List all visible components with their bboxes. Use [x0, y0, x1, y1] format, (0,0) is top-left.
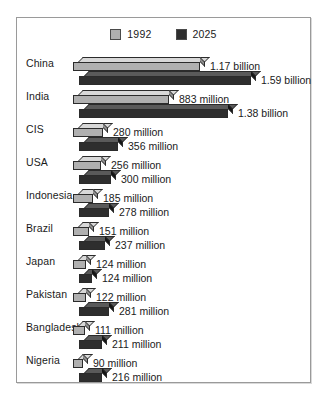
category-label: Nigeria [26, 354, 60, 366]
bar-group: 90 million216 million [73, 352, 310, 385]
bar-value-label: 1.59 billion [261, 74, 311, 86]
category-label: Japan [26, 255, 55, 267]
chart-row: USA256 million300 million [17, 154, 310, 187]
bar-value-label: 151 million [99, 225, 149, 237]
bar-front-face [73, 95, 169, 104]
legend-item-2025[interactable]: 2025 [176, 28, 217, 40]
bar-front-face [73, 62, 200, 71]
bar-1992[interactable]: 883 million [73, 90, 169, 100]
bar-2025[interactable]: 211 million [79, 335, 102, 345]
legend-label-2025: 2025 [193, 28, 217, 40]
bar-value-label: 281 million [119, 305, 169, 317]
bar-2025[interactable]: 124 million [79, 269, 92, 279]
bar-value-label: 1.38 billion [238, 107, 288, 119]
category-label: Brazil [26, 222, 53, 234]
bar-2025[interactable]: 237 million [79, 236, 105, 246]
chart-row: Pakistan122 million281 million [17, 286, 310, 319]
bar-group: 280 million356 million [73, 121, 310, 154]
bar-front-face [79, 208, 109, 217]
bar-value-label: 300 million [121, 173, 171, 185]
bar-group: 124 million124 million [73, 253, 310, 286]
bar-value-label: 90 million [93, 357, 137, 369]
bar-value-label: 211 million [112, 338, 161, 350]
bar-front-face [79, 340, 102, 349]
chart-row: Japan124 million124 million [17, 253, 310, 286]
bar-group: 256 million300 million [73, 154, 310, 187]
bar-value-label: 237 million [115, 239, 165, 251]
bar-2025[interactable]: 300 million [79, 170, 111, 180]
bar-top-face [78, 156, 111, 161]
bar-top-face [78, 189, 103, 194]
category-label: Indonesia [26, 189, 72, 201]
bar-front-face [73, 161, 101, 170]
category-label: USA [26, 156, 48, 168]
bar-front-face [73, 260, 86, 269]
bar-value-label: 122 million [96, 291, 146, 303]
bar-value-label: 1.17 billion [210, 60, 260, 72]
bar-1992[interactable]: 122 million [73, 288, 86, 298]
bar-value-label: 124 million [102, 272, 152, 284]
bar-front-face [73, 293, 86, 302]
bar-group: 122 million281 million [73, 286, 310, 319]
bar-front-face [79, 76, 251, 85]
bar-front-face [79, 274, 92, 283]
bar-1992[interactable]: 124 million [73, 255, 86, 265]
bar-value-label: 185 million [103, 192, 153, 204]
bar-front-face [73, 194, 93, 203]
bar-value-label: 216 million [112, 371, 162, 383]
category-label: China [26, 57, 54, 69]
category-label: India [26, 90, 49, 102]
legend-label-1992: 1992 [127, 28, 151, 40]
bar-value-label: 883 million [179, 93, 229, 105]
bar-2025[interactable]: 1.38 billion [79, 104, 228, 114]
chart-row: Brazil151 million237 million [17, 220, 310, 253]
bar-front-face [79, 307, 109, 316]
bar-group: 883 million1.38 billion [73, 88, 310, 121]
bar-front-face [73, 326, 85, 335]
bar-front-face [79, 109, 228, 118]
bar-1992[interactable]: 151 million [73, 222, 89, 232]
category-label: Pakistan [26, 288, 67, 300]
legend-item-1992[interactable]: 1992 [110, 28, 151, 40]
bar-front-face [73, 359, 83, 368]
legend-swatch-light-icon [110, 29, 121, 40]
chart-row: India883 million1.38 billion [17, 88, 310, 121]
chart-row: Indonesia185 million278 million [17, 187, 310, 220]
bar-1992[interactable]: 256 million [73, 156, 101, 166]
category-label: CIS [26, 123, 44, 135]
chart-legend: 1992 2025 [17, 28, 310, 40]
bar-2025[interactable]: 216 million [79, 368, 102, 378]
bar-value-label: 256 million [111, 159, 161, 171]
chart-row: China1.17 billion1.59 billion [17, 55, 310, 88]
bar-front-face [79, 142, 118, 151]
chart-row: CIS280 million356 million [17, 121, 310, 154]
bar-1992[interactable]: 90 million [73, 354, 83, 364]
chart-plot-area: China1.17 billion1.59 billionIndia883 mi… [17, 55, 310, 385]
chart-row: Nigeria90 million216 million [17, 352, 310, 385]
bar-value-label: 124 million [96, 258, 146, 270]
bar-value-label: 356 million [128, 140, 178, 152]
bar-group: 1.17 billion1.59 billion [73, 55, 310, 88]
bar-2025[interactable]: 281 million [79, 302, 109, 312]
chart-row: Bangladesh111 million211 million [17, 319, 310, 352]
bar-front-face [73, 128, 103, 137]
bar-group: 151 million237 million [73, 220, 310, 253]
bar-2025[interactable]: 278 million [79, 203, 109, 213]
bar-top-face [78, 57, 210, 62]
bar-1992[interactable]: 111 million [73, 321, 85, 331]
chart-frame: 1992 2025 China1.17 billion1.59 billionI… [16, 17, 311, 383]
bar-value-label: 111 million [95, 324, 144, 336]
legend-swatch-dark-icon [176, 29, 187, 40]
bar-group: 111 million211 million [73, 319, 310, 352]
bar-value-label: 280 million [113, 126, 163, 138]
bar-front-face [79, 241, 105, 250]
bar-1992[interactable]: 280 million [73, 123, 103, 133]
bar-2025[interactable]: 1.59 billion [79, 71, 251, 81]
bar-value-label: 278 million [119, 206, 169, 218]
bar-front-face [73, 227, 89, 236]
bar-top-face [78, 90, 179, 95]
bar-1992[interactable]: 1.17 billion [73, 57, 200, 67]
bar-1992[interactable]: 185 million [73, 189, 93, 199]
bar-2025[interactable]: 356 million [79, 137, 118, 147]
bar-front-face [79, 373, 102, 382]
